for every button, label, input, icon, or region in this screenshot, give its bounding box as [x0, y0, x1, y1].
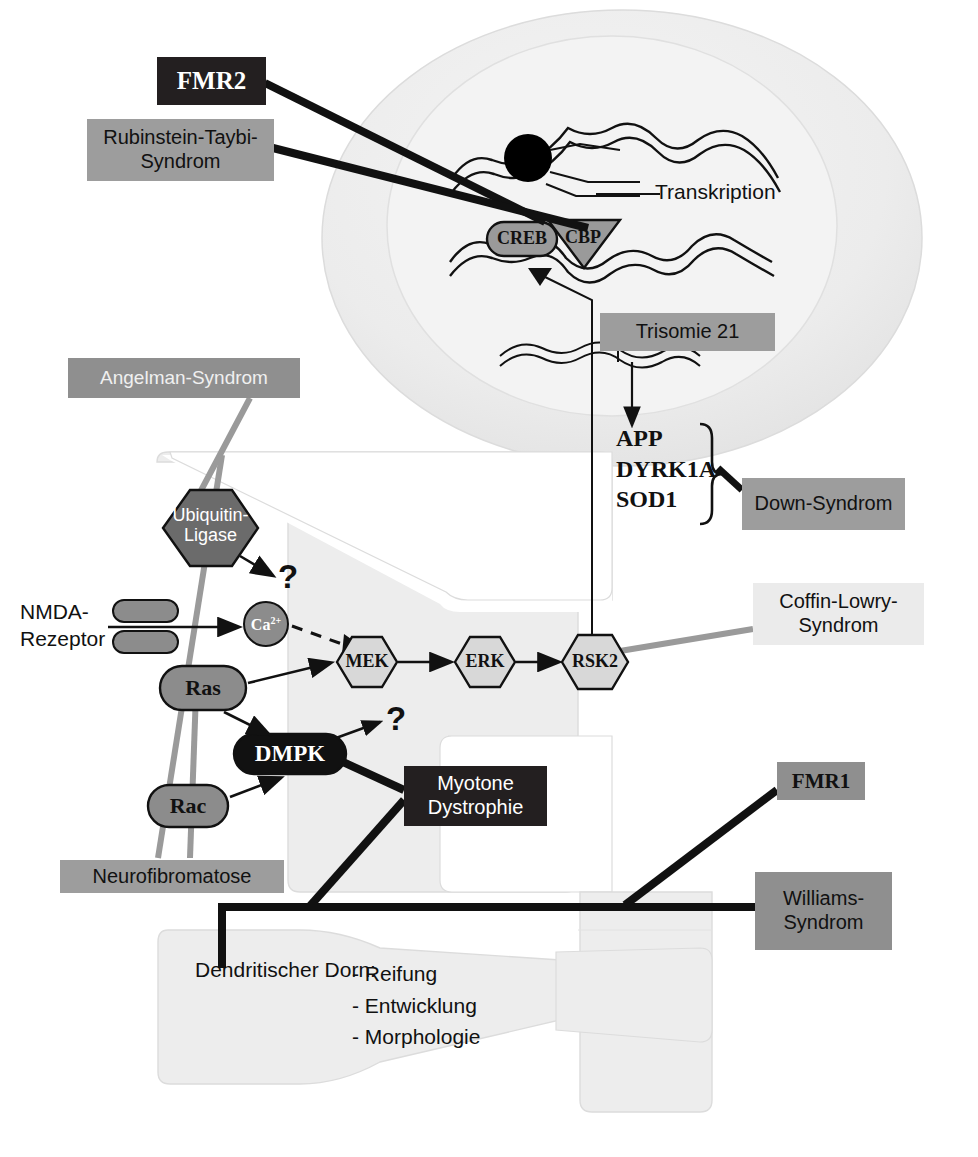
label-myotone-dystrophie[interactable]: Myotone Dystrophie: [404, 766, 547, 826]
question-mark-dmpk: ?: [386, 700, 406, 738]
connector-neurofibromatose-ras: [190, 693, 196, 858]
gene-sod1: SOD1: [616, 484, 716, 515]
gene-app: APP: [616, 423, 716, 454]
cl-line2: Syndrom: [753, 614, 924, 638]
rt-line2: Syndrom: [87, 150, 274, 174]
transcription-factor-circle: [504, 134, 552, 182]
transkription-label: Transkription: [655, 180, 776, 204]
spine-item-morphologie: - Morphologie: [352, 1021, 480, 1053]
label-trisomie-21[interactable]: Trisomie 21: [600, 313, 775, 351]
label-myotone-text: Myotone Dystrophie: [404, 772, 547, 819]
rt-line1: Rubinstein-Taybi-: [87, 126, 274, 150]
label-neurofibromatose[interactable]: Neurofibromatose: [60, 860, 284, 893]
figure-canvas: FMR2 Rubinstein-Taybi- Syndrom Angelman-…: [0, 0, 978, 1157]
creb-shape: [487, 222, 557, 256]
question-mark-ubiquitin: ?: [278, 558, 298, 596]
label-angelman-text: Angelman-Syndrom: [68, 367, 300, 389]
dendritic-spine-items: - Reifung - Entwicklung - Morphologie: [352, 958, 480, 1053]
label-rubinstein-taybi[interactable]: Rubinstein-Taybi- Syndrom: [87, 119, 274, 181]
label-rubinstein-taybi-text: Rubinstein-Taybi- Syndrom: [87, 126, 274, 173]
label-angelman-syndrom[interactable]: Angelman-Syndrom: [68, 358, 300, 398]
md-line1: Myotone: [404, 772, 547, 796]
label-trisomie-21-text: Trisomie 21: [600, 320, 775, 344]
spine-item-reifung: - Reifung: [352, 958, 480, 990]
spine-item-entwicklung: - Entwicklung: [352, 990, 480, 1022]
label-williams-syndrom[interactable]: Williams- Syndrom: [755, 872, 892, 950]
label-coffin-lowry[interactable]: Coffin-Lowry- Syndrom: [753, 583, 924, 645]
connector-coffin-lowry: [620, 629, 753, 651]
cl-line1: Coffin-Lowry-: [753, 590, 924, 614]
gene-list: APP DYRK1A SOD1: [616, 423, 716, 515]
calcium-shape: [244, 602, 288, 646]
connector-down: [718, 468, 742, 490]
ras-shape: [160, 666, 246, 710]
rac-to-dmpk-arrow: [230, 778, 280, 797]
label-down-syndrom-text: Down-Syndrom: [742, 492, 905, 516]
label-neurofibromatose-text: Neurofibromatose: [60, 865, 284, 889]
md-line2: Dystrophie: [404, 796, 547, 820]
nmda-receptor-label: NMDA- Rezeptor: [20, 598, 105, 653]
label-fmr1[interactable]: FMR1: [777, 762, 865, 800]
cell-soma: [322, 10, 922, 466]
ws-line1: Williams-: [755, 887, 892, 911]
rac-shape: [148, 785, 228, 827]
label-fmr2[interactable]: FMR2: [157, 57, 266, 105]
ras-to-dmpk-arrow: [224, 712, 268, 734]
gene-dyrk1a: DYRK1A: [616, 454, 716, 485]
dendritic-spine-heading: Dendritischer Dorn:: [195, 958, 376, 982]
rsk2-shape: [562, 635, 628, 689]
label-williams-text: Williams- Syndrom: [755, 887, 892, 934]
label-fmr1-text: FMR1: [777, 769, 865, 794]
nmda-line1: NMDA-: [20, 598, 105, 625]
label-fmr2-text: FMR2: [157, 66, 266, 96]
dmpk-shape: [234, 734, 346, 774]
nmda-line2: Rezeptor: [20, 625, 105, 652]
ws-line2: Syndrom: [755, 911, 892, 935]
label-down-syndrom[interactable]: Down-Syndrom: [742, 478, 905, 530]
label-coffin-lowry-text: Coffin-Lowry- Syndrom: [753, 590, 924, 637]
